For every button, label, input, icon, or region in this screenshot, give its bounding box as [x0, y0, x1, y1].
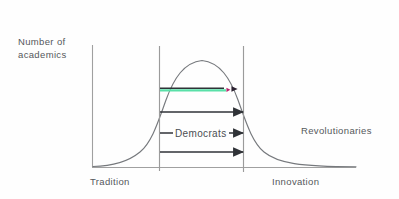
y-axis-label-line1: Number of	[18, 36, 67, 49]
annotation-democrats: Democrats	[173, 128, 229, 141]
y-axis-label-line2: academics	[18, 49, 67, 62]
diagram-svg	[0, 0, 399, 199]
annotation-revolutionaries: Revolutionaries	[301, 125, 372, 138]
y-axis-label: Number of academics	[18, 36, 67, 61]
x-axis-label-innovation: Innovation	[272, 176, 319, 189]
distribution-curve	[93, 61, 356, 167]
x-axis-label-tradition: Tradition	[90, 176, 130, 189]
diagram-canvas-container: Number of academics Tradition Innovation…	[0, 0, 399, 199]
